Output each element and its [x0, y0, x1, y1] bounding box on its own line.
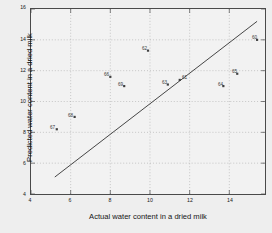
- point-label: 60: [252, 36, 257, 41]
- x-tick-label: 8: [102, 198, 118, 203]
- point-label: 69: [118, 83, 123, 88]
- plot-svg: [31, 9, 265, 194]
- point-label: 68: [68, 114, 73, 119]
- x-tick-label: 6: [62, 198, 78, 203]
- y-tick-label: 4: [10, 192, 26, 197]
- x-tick-label: 12: [182, 198, 198, 203]
- point-label: 62: [142, 47, 147, 52]
- x-tick-label: 10: [142, 198, 158, 203]
- gridlines: [31, 9, 265, 194]
- point-label: 61: [182, 76, 187, 81]
- point-label: 66: [104, 73, 109, 78]
- point-label: 64: [218, 83, 223, 88]
- figure-canvas: 46810121416 468101214 676866696263616465…: [0, 0, 272, 233]
- plot-area: [30, 8, 266, 195]
- identity-line: [55, 21, 257, 177]
- point-label: 65: [232, 70, 237, 75]
- x-tick-label: 4: [22, 198, 38, 203]
- x-axis-title: Actual water content in a dried milk: [30, 212, 266, 221]
- y-axis-title: Predicted water content in a dried milk: [25, 3, 34, 193]
- point-label: 67: [50, 126, 55, 131]
- x-tick-label: 14: [222, 198, 238, 203]
- point-label: 63: [162, 81, 167, 86]
- data-markers: [56, 39, 258, 131]
